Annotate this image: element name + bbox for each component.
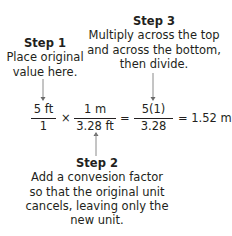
step3-arrow-icon bbox=[148, 73, 158, 103]
step3-line: then divide. bbox=[84, 57, 224, 71]
fraction-original-value: 5 ft 1 bbox=[31, 103, 56, 133]
step3-line: and across the bottom, bbox=[84, 43, 224, 57]
fraction-conversion-factor: 1 m 3.28 ft bbox=[74, 103, 116, 133]
step2-line: cancels, leaving only the bbox=[22, 199, 172, 213]
fraction-multiplied: 5(1) 3.28 bbox=[134, 103, 173, 133]
step1-label: Step 1 Place original value here. bbox=[0, 36, 90, 79]
step1-line: Place original bbox=[0, 50, 90, 64]
step2-line: Add a convesion factor bbox=[22, 170, 172, 184]
step2-line: new unit. bbox=[22, 213, 172, 227]
step2-arrow-icon bbox=[91, 132, 101, 158]
equals-sign: = bbox=[120, 112, 130, 125]
fraction3-denominator: 3.28 bbox=[134, 120, 173, 133]
step3-label: Step 3 Multiply across the top and acros… bbox=[84, 14, 224, 71]
fraction1-denominator: 1 bbox=[31, 120, 56, 133]
step2-line: so that the original unit bbox=[22, 185, 172, 199]
step3-heading: Step 3 bbox=[84, 14, 224, 28]
result-value: = 1.52 m bbox=[178, 112, 232, 125]
step3-line: Multiply across the top bbox=[84, 28, 224, 42]
step1-line: value here. bbox=[0, 65, 90, 79]
step1-heading: Step 1 bbox=[0, 36, 90, 50]
fraction2-numerator: 1 m bbox=[74, 103, 116, 116]
step2-label: Step 2 Add a convesion factor so that th… bbox=[22, 156, 172, 227]
fraction3-numerator: 5(1) bbox=[134, 103, 173, 116]
fraction1-numerator: 5 ft bbox=[31, 103, 56, 116]
step2-heading: Step 2 bbox=[22, 156, 172, 170]
times-sign: × bbox=[61, 112, 71, 125]
step1-arrow-icon bbox=[38, 79, 48, 103]
